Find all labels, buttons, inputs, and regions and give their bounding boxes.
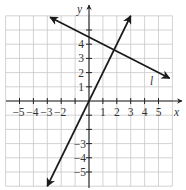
- y-tick-label: 2: [78, 67, 84, 79]
- y-tick-label: 3: [78, 52, 84, 64]
- line-l-label: l: [150, 75, 153, 87]
- x-tick-label: 2: [114, 106, 120, 118]
- x-tick-label: 3: [128, 106, 134, 118]
- y-tick-label: 4: [78, 38, 84, 50]
- y-tick-label: −4: [74, 152, 86, 164]
- coordinate-plane: x y l −5−4−3−212345 4321−3−4−5: [0, 0, 186, 190]
- x-tick-labels: −5−4−3−212345: [12, 106, 161, 118]
- x-tick-label: 5: [156, 106, 162, 118]
- x-tick-label: −5: [12, 106, 24, 118]
- y-axis-label: y: [76, 3, 83, 16]
- x-axis-label: x: [173, 106, 180, 118]
- line-l: [50, 17, 170, 78]
- y-tick-label: −5: [74, 166, 86, 178]
- y-tick-label: −3: [74, 138, 86, 150]
- x-tick-label: −2: [54, 106, 66, 118]
- x-tick-label: −3: [40, 106, 52, 118]
- y-tick-labels: 4321−3−4−5: [74, 38, 86, 178]
- x-tick-label: −4: [26, 106, 38, 118]
- x-tick-label: 1: [100, 106, 106, 118]
- y-tick-label: 1: [78, 81, 84, 93]
- x-tick-label: 4: [142, 106, 148, 118]
